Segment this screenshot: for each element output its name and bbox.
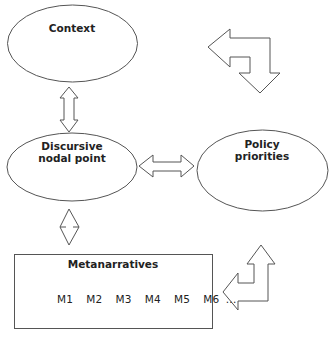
double-arrow-vertical-icon <box>60 87 78 132</box>
discursive-label-line2: nodal point <box>22 152 122 164</box>
double-arrow-horizontal-icon <box>139 155 194 177</box>
policy-label-line1: Policy <box>212 138 312 150</box>
metanarratives-items: M1 M2 M3 M4 M5 M6 ... <box>44 281 214 305</box>
bent-arrow-left-down-icon <box>208 29 280 93</box>
context-label-text: Context <box>49 22 95 34</box>
context-label: Context <box>22 22 122 34</box>
discursive-label-line1: Discursive <box>22 140 122 152</box>
discursive-label: Discursive nodal point <box>22 140 122 164</box>
metanarratives-label: Metanarratives <box>14 258 212 270</box>
policy-label: Policy priorities <box>212 138 312 162</box>
context-ellipse <box>8 5 138 82</box>
metanarratives-label-text: Metanarratives <box>68 258 159 270</box>
metanarratives-items-text: M1 M2 M3 M4 M5 M6 ... <box>57 293 236 305</box>
policy-label-line2: priorities <box>212 150 312 162</box>
